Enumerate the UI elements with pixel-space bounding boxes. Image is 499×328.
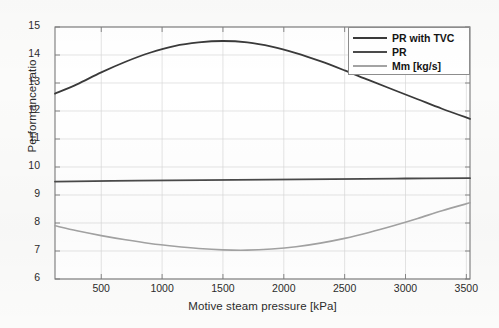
legend-swatch-mm	[353, 65, 387, 67]
x-tick-1000: 1000	[150, 282, 173, 294]
x-tick-3500: 3500	[455, 282, 478, 294]
legend-swatch-pr-with-tvc	[353, 37, 387, 39]
legend-item-pr: PR	[353, 45, 465, 59]
chart-legend: PR with TVC PR Mm [kg/s]	[348, 27, 470, 75]
x-tick-2000: 2000	[272, 282, 295, 294]
legend-label-pr-with-tvc: PR with TVC	[392, 32, 454, 44]
chart-figure: 1514131211109876 50010001500200025003000…	[0, 0, 499, 328]
x-tick-3000: 3000	[394, 282, 417, 294]
x-tick-500: 500	[92, 282, 110, 294]
legend-item-mm: Mm [kg/s]	[353, 59, 465, 73]
x-tick-1500: 1500	[211, 282, 234, 294]
y-tick-label: 6	[14, 271, 40, 283]
y-axis-label: Performance ratio	[26, 26, 38, 186]
legend-label-pr: PR	[392, 46, 407, 58]
x-tick-2500: 2500	[333, 282, 356, 294]
y-tick-label: 9	[14, 187, 40, 199]
y-tick-label: 8	[14, 215, 40, 227]
legend-item-pr-with-tvc: PR with TVC	[353, 31, 465, 45]
x-axis-label: Motive steam pressure [kPa]	[55, 300, 470, 312]
legend-swatch-pr	[353, 51, 387, 53]
legend-label-mm: Mm [kg/s]	[392, 60, 441, 72]
y-tick-label: 7	[14, 243, 40, 255]
